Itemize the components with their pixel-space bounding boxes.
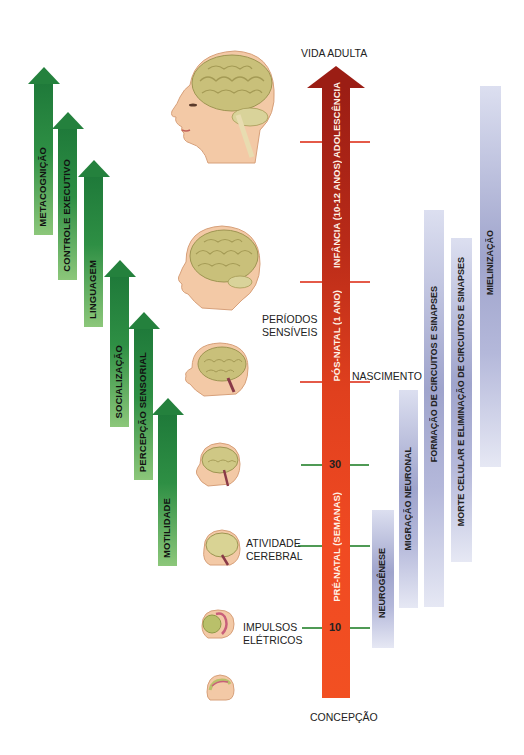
- embryo-10-weeks-icon: [198, 608, 238, 640]
- fetus-brain-activity-icon: [198, 527, 242, 569]
- process-label: MORTE CELULAR E ELIMINAÇÃO DE CIRCUITOS …: [456, 257, 466, 526]
- bar-migracao-neuronal: MIGRAÇÃO NEURONAL: [399, 390, 418, 608]
- nascimento-label: NASCIMENTO: [352, 370, 422, 383]
- arrow-linguagem: LINGUAGEM: [84, 160, 103, 327]
- process-label: MIELINIZAÇÃO: [485, 230, 495, 295]
- periodos-sensiveis-label: PERÍODOS SENSÍVEIS: [262, 313, 317, 339]
- impulsos-eletricos-label: IMPULSOS ELÉTRICOS: [243, 621, 303, 647]
- child-head-brain-icon: [172, 222, 264, 312]
- adult-head-brain-icon: [160, 45, 280, 170]
- function-label: PERCEPÇÃO SENSORIAL: [137, 352, 148, 472]
- function-label: MOTILIDADE: [161, 498, 172, 558]
- bar-mielinizacao: MIELINIZAÇÃO: [480, 86, 501, 467]
- timeline-top-label: VIDA ADULTA: [301, 47, 367, 60]
- process-label: NEUROGÊNESE: [377, 548, 387, 618]
- arrow-head-icon: [104, 260, 136, 277]
- arrow-head-icon: [52, 112, 84, 129]
- arrow-head-icon: [78, 160, 110, 177]
- function-label: LINGUAGEM: [87, 260, 98, 319]
- week-30-value: 30: [329, 458, 341, 470]
- function-label: SOCIALIZAÇÃO: [113, 345, 124, 419]
- arrow-socializacao: SOCIALIZAÇÃO: [110, 260, 129, 427]
- phase-pre-natal: PRÉ-NATAL (SEMANAS): [331, 492, 342, 602]
- arrow-head-icon: [28, 67, 60, 84]
- process-label: MIGRAÇÃO NEURONAL: [403, 447, 413, 551]
- process-label: FORMAÇÃO DE CIRCUITOS E SINAPSES: [429, 286, 439, 462]
- arrow-controle-executivo: CONTROLE EXECUTIVO: [58, 112, 77, 280]
- phase-pos-natal: PÓS-NATAL (1 ANO): [331, 290, 342, 381]
- phase-adolescencia: ADOLESCÊNCIA: [331, 82, 342, 158]
- arrow-head-icon: [152, 398, 184, 415]
- phase-infancia: INFÂNCIA (10-12 ANOS): [331, 160, 342, 268]
- arrow-metacognicao: METACOGNIÇÃO: [34, 67, 53, 235]
- infant-head-brain-icon: [182, 340, 252, 398]
- bar-morte-celular: MORTE CELULAR E ELIMINAÇÃO DE CIRCUITOS …: [451, 238, 472, 562]
- bar-formacao-circuitos: FORMAÇÃO DE CIRCUITOS E SINAPSES: [424, 210, 444, 607]
- atividade-cerebral-label: ATIVIDADE CEREBRAL: [246, 537, 298, 563]
- arrow-head-icon: [128, 312, 160, 329]
- fetus-30-weeks-brain-icon: [192, 440, 244, 490]
- embryo-conception-icon: [204, 672, 236, 702]
- function-label: CONTROLE EXECUTIVO: [61, 159, 72, 272]
- function-label: METACOGNIÇÃO: [37, 147, 48, 227]
- bar-neurogenese: NEUROGÊNESE: [372, 510, 394, 648]
- week-10-value: 10: [329, 621, 341, 633]
- arrow-percepcao-sensorial: PERCEPÇÃO SENSORIAL: [134, 312, 153, 480]
- timeline-bottom-label: CONCEPÇÃO: [310, 711, 378, 724]
- arrow-motilidade: MOTILIDADE: [158, 398, 177, 566]
